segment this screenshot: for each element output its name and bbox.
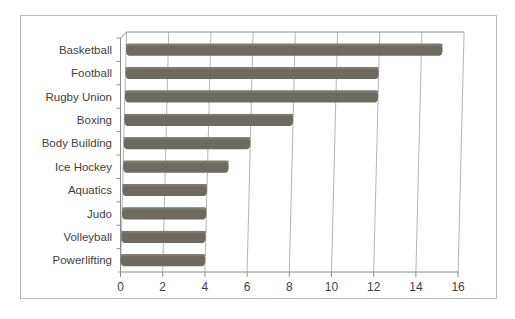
- value-tick-label: 16: [443, 280, 473, 294]
- value-tick-label: 12: [359, 280, 389, 294]
- value-tick-label: 6: [232, 280, 262, 294]
- value-tick-label: 8: [274, 280, 304, 294]
- value-tick-label: 14: [401, 280, 431, 294]
- value-axis-tick-labels: 0246810121416: [0, 0, 515, 319]
- value-tick-label: 2: [148, 280, 178, 294]
- value-tick-label: 10: [317, 280, 347, 294]
- bar-chart-figure: BasketballFootballRugby UnionBoxingBody …: [0, 0, 515, 319]
- value-tick-label: 0: [106, 280, 136, 294]
- value-tick-label: 4: [190, 280, 220, 294]
